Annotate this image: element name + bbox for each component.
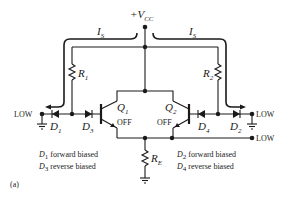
svg-text:OFF: OFF [157,118,172,127]
transistor-q1: Q1 OFF [101,101,132,138]
ground-left-icon [37,114,47,129]
resistor-re: RE [142,138,163,178]
note-d1: D1 forward biased [38,150,98,161]
resistor-r2: R2 [202,47,221,114]
svg-text:OFF: OFF [117,118,132,127]
svg-text:R1: R1 [77,67,88,82]
svg-text:R2: R2 [202,67,214,82]
svg-text:D3: D3 [81,120,94,135]
transistor-q2: Q2 OFF [157,101,189,138]
is-right-label: IS [188,25,197,40]
figure-label: (a) [10,180,19,189]
right-input-label: LOW [256,110,275,119]
svg-text:RE: RE [150,152,163,167]
vcc-terminal: +VCC [130,8,154,91]
arrow-left-icon [45,105,51,110]
svg-text:D1: D1 [49,120,61,135]
circuit-diagram: +VCC IS IS R1 R2 LOW D1 [0,0,291,206]
resistor-r1: R1 [69,47,88,114]
note-d3: D3 reverse biased [38,162,96,173]
note-d4: D4 reverse biased [176,162,234,173]
svg-text:Q2: Q2 [165,101,177,116]
output-label: LOW [256,134,275,143]
svg-text:D4: D4 [197,120,210,135]
current-path-right [153,33,243,107]
is-left-label: IS [96,25,105,40]
arrow-right-icon [240,105,246,110]
left-input-label: LOW [14,110,33,119]
svg-text:+VCC: +VCC [130,8,154,23]
svg-text:Q1: Q1 [117,101,128,116]
svg-text:D2: D2 [229,120,242,135]
note-d2: D2 forward biased [176,150,236,161]
ground-re-icon [140,178,150,183]
current-path-left [48,33,137,107]
